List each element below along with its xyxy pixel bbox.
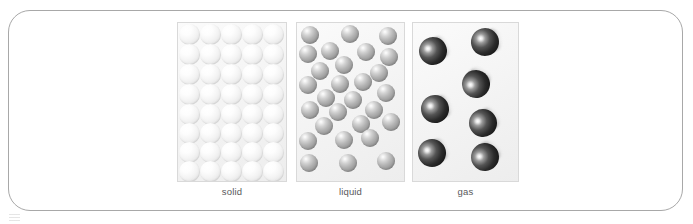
particle-liquid xyxy=(329,103,347,121)
particle-liquid xyxy=(301,26,319,44)
panel-liquid-label: liquid xyxy=(296,186,405,198)
particle-liquid xyxy=(377,152,395,170)
panel-gas-label: gas xyxy=(412,186,519,198)
particle-solid xyxy=(263,142,284,163)
particle-solid xyxy=(242,64,263,85)
particle-solid xyxy=(221,84,242,105)
particle-liquid xyxy=(299,76,317,94)
particle-liquid xyxy=(379,27,397,45)
particle-liquid xyxy=(382,113,400,131)
gas-particle-body xyxy=(465,137,505,177)
particle-solid xyxy=(242,142,263,163)
particle-liquid xyxy=(370,64,388,82)
particle-solid xyxy=(263,44,284,65)
particle-solid xyxy=(263,24,284,45)
particle-liquid xyxy=(299,45,317,63)
particle-solid xyxy=(200,161,221,182)
gas-particle-body xyxy=(414,32,452,70)
particle-solid xyxy=(200,104,221,125)
particle-solid xyxy=(221,44,242,65)
particle-gas xyxy=(468,25,502,59)
panel-liquid-box xyxy=(296,22,405,182)
particle-solid xyxy=(179,142,200,163)
particle-liquid xyxy=(315,117,333,135)
particle-solid xyxy=(179,161,200,182)
particle-solid xyxy=(263,104,284,125)
particle-solid xyxy=(179,44,200,65)
particle-gas xyxy=(414,135,451,172)
particle-liquid xyxy=(380,48,398,66)
particle-solid xyxy=(242,123,263,144)
particle-solid xyxy=(242,161,263,182)
particle-liquid xyxy=(335,56,353,74)
particle-solid xyxy=(221,123,242,144)
panel-gas-particles xyxy=(413,23,518,181)
particle-solid xyxy=(200,44,221,65)
particle-liquid xyxy=(357,43,375,61)
particle-solid xyxy=(242,104,263,125)
particle-solid xyxy=(179,104,200,125)
particle-solid xyxy=(221,161,242,182)
panel-solid: solid xyxy=(177,22,287,202)
particle-liquid xyxy=(300,154,318,172)
particle-gas xyxy=(417,91,453,127)
panel-solid-particles xyxy=(178,23,286,181)
states-of-matter-figure: solid liquid gas xyxy=(0,0,693,224)
panel-liquid-particles xyxy=(297,23,404,181)
particle-liquid xyxy=(365,101,383,119)
particle-solid xyxy=(221,64,242,85)
particle-liquid xyxy=(331,75,349,93)
particle-solid xyxy=(242,44,263,65)
particle-liquid xyxy=(361,129,379,147)
particle-liquid xyxy=(301,101,319,119)
particle-solid xyxy=(242,84,263,105)
particle-solid xyxy=(200,142,221,163)
particle-solid xyxy=(179,84,200,105)
particle-solid xyxy=(200,24,221,45)
particle-solid xyxy=(221,104,242,125)
particle-solid xyxy=(179,24,200,45)
particle-gas xyxy=(414,32,452,70)
panel-solid-box xyxy=(177,22,287,182)
particle-liquid xyxy=(344,91,362,109)
panel-solid-label: solid xyxy=(177,186,287,198)
particle-solid xyxy=(263,84,284,105)
panel-gas: gas xyxy=(412,22,519,202)
particle-solid xyxy=(200,84,221,105)
particle-liquid xyxy=(299,132,317,150)
particle-liquid xyxy=(335,131,353,149)
particle-solid xyxy=(263,64,284,85)
panels-container: solid liquid gas xyxy=(177,22,519,202)
particle-solid xyxy=(263,123,284,144)
particle-solid xyxy=(263,161,284,182)
particle-liquid xyxy=(321,42,339,60)
particle-gas xyxy=(465,137,505,177)
particle-liquid xyxy=(377,84,395,102)
particle-solid xyxy=(200,64,221,85)
particle-solid xyxy=(221,24,242,45)
particle-liquid xyxy=(339,154,357,172)
particle-solid xyxy=(200,123,221,144)
particle-liquid xyxy=(341,25,359,43)
particle-gas xyxy=(457,65,495,103)
particle-solid xyxy=(221,142,242,163)
panel-liquid: liquid xyxy=(296,22,405,202)
gas-particle-body xyxy=(457,65,495,103)
particle-solid xyxy=(242,24,263,45)
particle-solid xyxy=(179,64,200,85)
scan-artifact xyxy=(9,214,20,221)
particle-solid xyxy=(179,123,200,144)
panel-gas-box xyxy=(412,22,519,182)
particle-liquid xyxy=(354,73,372,91)
gas-particle-body xyxy=(414,135,451,172)
